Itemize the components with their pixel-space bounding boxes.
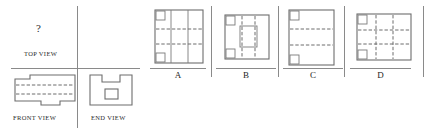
- front-view-drawing: [14, 74, 76, 108]
- option-d-baseline: [350, 68, 411, 69]
- option-a[interactable]: A: [150, 0, 212, 80]
- option-divider-c-d: [344, 6, 345, 77]
- option-c-label: C: [283, 70, 343, 80]
- option-b[interactable]: B: [216, 0, 278, 80]
- end-view-drawing: [89, 74, 133, 108]
- option-divider-a-b: [211, 6, 212, 77]
- option-a-drawing: [154, 9, 204, 64]
- option-b-baseline: [216, 68, 276, 69]
- quadrant-horizontal-divider: [11, 68, 140, 69]
- option-divider-d-end: [423, 6, 424, 77]
- option-a-baseline: [150, 68, 206, 69]
- missing-view-question-mark: ?: [36, 22, 41, 34]
- option-divider-b-c: [278, 6, 279, 77]
- projection-puzzle-figure: ? TOP VIEW FRONT VIEW END VIEW: [0, 0, 437, 133]
- option-c-baseline: [283, 68, 343, 69]
- option-b-label: B: [216, 70, 276, 80]
- option-b-drawing: [224, 14, 272, 60]
- end-view-label: END VIEW: [91, 114, 126, 121]
- option-d[interactable]: D: [350, 0, 420, 80]
- option-a-label: A: [150, 70, 206, 80]
- quadrant-vertical-divider: [77, 6, 78, 128]
- front-view-label: FRONT VIEW: [13, 114, 56, 121]
- option-d-label: D: [350, 70, 411, 80]
- option-d-drawing: [356, 13, 414, 61]
- option-c-drawing: [288, 9, 338, 66]
- top-view-label: TOP VIEW: [24, 50, 57, 57]
- given-views-panel: ? TOP VIEW FRONT VIEW END VIEW: [0, 0, 150, 133]
- answer-options-panel: A B: [150, 0, 437, 133]
- option-c[interactable]: C: [283, 0, 349, 80]
